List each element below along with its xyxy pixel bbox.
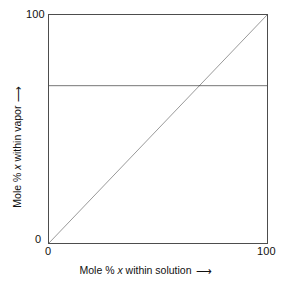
x-axis-title-suffix: within solution: [123, 264, 192, 276]
x-axis-title: Mole % x within solution⟶: [0, 264, 291, 277]
y-axis-title: Mole % x within vapor⟶: [11, 47, 24, 247]
plot-inner: [49, 15, 267, 243]
y-axis-title-variable: x: [11, 165, 23, 170]
series-ideal-diagonal: [49, 15, 267, 243]
x-axis-title-prefix: Mole %: [79, 264, 117, 276]
y-axis-tick-100: 100: [26, 9, 45, 20]
y-axis-arrow-icon: ⟶: [13, 86, 25, 102]
y-axis-title-prefix: Mole %: [11, 170, 23, 208]
x-axis-tick-100: 100: [257, 246, 276, 257]
plot-area: [48, 14, 268, 244]
x-axis-arrow-icon: ⟶: [196, 265, 212, 277]
chart-figure: 100 0 0 100 Mole % x within vapor⟶ Mole …: [0, 0, 291, 287]
plot-svg: [49, 15, 267, 243]
y-axis-tick-0: 0: [35, 234, 41, 245]
y-axis-title-suffix: within vapor: [11, 106, 23, 165]
x-axis-tick-0: 0: [45, 246, 51, 257]
